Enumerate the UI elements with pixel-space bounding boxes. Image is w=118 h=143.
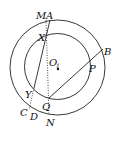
- label-O-sub: 1: [56, 62, 60, 69]
- geometry-diagram: M A X O 1 B P Y Q C D N: [0, 0, 118, 143]
- label-Q: Q: [42, 101, 50, 112]
- label-C: C: [20, 107, 28, 118]
- label-D: D: [29, 111, 38, 122]
- label-N: N: [45, 117, 56, 128]
- label-P: P: [88, 63, 96, 74]
- label-A: A: [45, 10, 53, 21]
- label-X: X: [37, 32, 46, 43]
- label-B: B: [103, 46, 111, 57]
